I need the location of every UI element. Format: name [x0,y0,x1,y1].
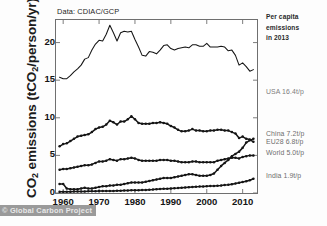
legend-entry: USA 16.4t/p [266,88,304,96]
legend-header-line-2: emissions [266,23,299,34]
x-tick-label: 1990 [151,196,191,207]
data-source-note: Data: CDIAC/GCP [57,7,119,16]
x-tick-label: 2000 [187,196,227,207]
chart-figure: CO2 emissions (tCO2/person/yr) Data: CDI… [0,0,327,226]
watermark: © Global Carbon Project [0,205,96,216]
x-tick-label: 1980 [115,196,155,207]
y-tick-label: 20 [33,36,55,47]
legend-header-line-1: Per capita [266,12,299,23]
legend-entry: EU28 6.8t/p [266,138,304,146]
legend-header: Per capita emissions in 2013 [266,12,299,44]
legend-header-line-3: in 2013 [266,33,299,44]
y-tick-label: 10 [33,111,55,122]
y-tick-label: 15 [33,73,55,84]
y-axis-title-text: CO2 emissions (tCO2/person/yr) [24,0,39,198]
series-markers-eu28 [58,115,254,148]
legend-entry: India 1.9t/p [266,172,301,180]
plot-canvas [56,20,257,193]
legend-entry: World 5.0t/p [266,149,304,157]
y-tick-label: 5 [33,148,55,159]
series-line-usa [60,25,254,78]
x-tick-label: 2010 [223,196,263,207]
plot-area [55,19,258,194]
